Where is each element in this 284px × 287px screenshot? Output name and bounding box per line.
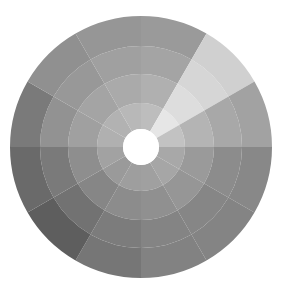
sunburst-diagram (0, 0, 284, 287)
center-hole (123, 129, 159, 165)
